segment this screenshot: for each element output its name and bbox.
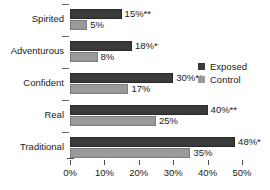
bar-row: 15%**: [70, 9, 242, 19]
bar-row: 40%**: [70, 105, 242, 115]
axis-tick-mark: [208, 160, 209, 165]
legend-item: Exposed: [198, 62, 247, 72]
bar-value-label: 40%**: [208, 105, 237, 115]
legend-label: Exposed: [210, 62, 247, 72]
axis-tick-label: 20%: [129, 168, 148, 178]
bar-exposed: [70, 9, 122, 19]
category-label: Spirited: [0, 14, 64, 24]
bar-row: 18%*: [70, 41, 242, 51]
bar-value-label: 18%*: [132, 41, 158, 51]
bar-control: [70, 20, 87, 30]
axis-tick-label: 10%: [95, 168, 114, 178]
legend-swatch-icon: [198, 76, 205, 83]
group-separator-tick: [62, 132, 69, 133]
bar-exposed: [70, 137, 235, 147]
group-separator-tick: [62, 4, 69, 5]
axis-tick-label: 40%: [198, 168, 217, 178]
bar-value-label: 25%: [156, 116, 178, 126]
legend-label: Control: [210, 75, 241, 85]
value-axis: 0%10%20%30%40%50%: [70, 160, 242, 190]
bar-exposed: [70, 41, 132, 51]
axis-tick-mark: [139, 160, 140, 165]
category-label: Confident: [0, 78, 64, 88]
axis-tick-mark: [70, 160, 71, 165]
bar-control: [70, 116, 156, 126]
category-axis-labels: SpiritedAdventurousConfidentRealTraditio…: [0, 0, 64, 160]
category-label: Real: [0, 110, 64, 120]
bar-value-label: 48%*: [235, 137, 261, 147]
group-separator-tick: [62, 68, 69, 69]
axis-tick-mark: [173, 160, 174, 165]
bar-row: 48%*: [70, 137, 242, 147]
bar-control: [70, 148, 190, 158]
group-separator-tick: [62, 36, 69, 37]
axis-tick-mark: [104, 160, 105, 165]
chart-legend: ExposedControl: [198, 62, 247, 87]
bar-row: 25%: [70, 116, 242, 126]
bar-exposed: [70, 73, 173, 83]
bar-control: [70, 52, 98, 62]
axis-tick-mark: [242, 160, 243, 165]
bar-row: 5%: [70, 20, 242, 30]
bar-value-label: 35%: [190, 148, 212, 158]
bar-control: [70, 84, 128, 94]
bar-row: 35%: [70, 148, 242, 158]
bar-exposed: [70, 105, 208, 115]
group-separator-tick: [62, 100, 69, 101]
bar-value-label: 8%: [98, 52, 115, 62]
legend-swatch-icon: [198, 63, 205, 70]
bar-value-label: 5%: [87, 20, 104, 30]
bar-chart: SpiritedAdventurousConfidentRealTraditio…: [0, 0, 270, 190]
axis-tick-label: 30%: [164, 168, 183, 178]
bar-value-label: 17%: [128, 84, 150, 94]
bar-row: 8%: [70, 52, 242, 62]
category-label: Traditional: [0, 142, 64, 152]
legend-item: Control: [198, 75, 247, 85]
bar-value-label: 15%**: [122, 9, 151, 19]
category-label: Adventurous: [0, 46, 64, 56]
axis-origin-mark: [67, 158, 74, 159]
axis-tick-label: 50%: [232, 168, 251, 178]
axis-tick-label: 0%: [63, 168, 77, 178]
